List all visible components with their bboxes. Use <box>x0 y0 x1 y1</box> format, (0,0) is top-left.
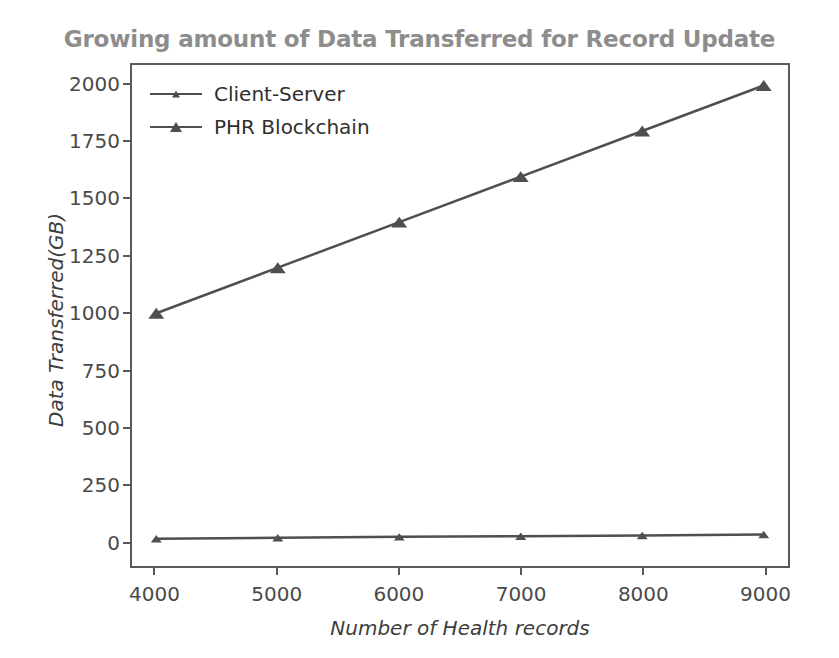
x-tick-mark <box>765 568 767 575</box>
y-tick-mark <box>123 197 130 199</box>
y-axis-label: Data Transferred(GB) <box>44 20 68 620</box>
x-axis-label: Number of Health records <box>130 616 790 640</box>
y-tick-mark <box>123 427 130 429</box>
chart-page: Growing amount of Data Transferred for R… <box>0 0 839 658</box>
series-layer <box>148 80 771 542</box>
x-tick-label: 8000 <box>593 582 693 606</box>
y-tick-mark <box>123 542 130 544</box>
legend-swatch-client-server <box>148 83 204 105</box>
chart-title: Growing amount of Data Transferred for R… <box>0 26 839 52</box>
x-tick-label: 7000 <box>471 582 571 606</box>
triangle-marker-icon <box>170 122 182 132</box>
y-tick-mark <box>123 255 130 257</box>
x-tick-mark <box>520 568 522 575</box>
data-point-marker <box>634 126 650 137</box>
legend-item-client-server[interactable]: Client-Server <box>148 77 370 110</box>
x-tick-mark <box>153 568 155 575</box>
x-tick-label: 9000 <box>716 582 816 606</box>
x-tick-label: 4000 <box>104 582 204 606</box>
x-tick-mark <box>642 568 644 575</box>
x-tick-mark <box>276 568 278 575</box>
data-point-marker <box>756 80 772 91</box>
series-line-1 <box>156 535 763 539</box>
legend-item-phr-blockchain[interactable]: PHR Blockchain <box>148 110 370 143</box>
y-tick-mark <box>123 83 130 85</box>
x-tick-mark <box>398 568 400 575</box>
x-tick-label: 5000 <box>227 582 327 606</box>
legend-label-phr-blockchain: PHR Blockchain <box>214 115 370 139</box>
y-tick-mark <box>123 140 130 142</box>
legend-label-client-server: Client-Server <box>214 82 345 106</box>
plot-area: Client-Server PHR Blockchain <box>130 63 790 568</box>
legend-swatch-phr-blockchain <box>148 116 204 138</box>
chart-legend: Client-Server PHR Blockchain <box>144 73 378 147</box>
x-tick-label: 6000 <box>349 582 449 606</box>
data-point-marker <box>513 171 529 182</box>
y-tick-mark <box>123 484 130 486</box>
y-tick-mark <box>123 312 130 314</box>
y-tick-mark <box>123 370 130 372</box>
data-point-marker <box>148 308 164 319</box>
triangle-marker-icon <box>172 90 180 97</box>
data-point-marker <box>270 262 286 273</box>
data-point-marker <box>391 217 407 228</box>
